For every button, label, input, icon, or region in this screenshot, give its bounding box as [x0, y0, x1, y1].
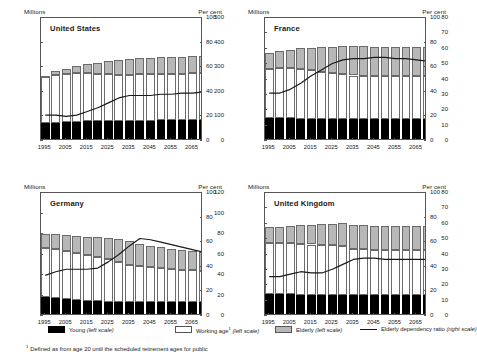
x-tick-label: 2035: [122, 319, 135, 325]
x-tick-label: 2005: [283, 319, 296, 325]
x-tick-mark: [268, 138, 269, 141]
y-tick-label-right: 100: [206, 14, 216, 20]
x-tick-mark: [394, 138, 395, 141]
y-tick-label-right: 60: [206, 63, 213, 69]
figure-footnote: 1Defined as from age 20 until the schedu…: [26, 344, 446, 352]
x-tick-label: 2015: [80, 144, 93, 150]
x-tick-mark: [170, 313, 171, 316]
x-tick-mark: [331, 138, 332, 141]
y-tick-mark-left: [264, 63, 267, 64]
x-tick-label: 2005: [59, 144, 72, 150]
y-tick-label-right: 100: [206, 189, 216, 195]
y-tick-label-right: 0: [206, 312, 209, 318]
y-tick-mark-left: [264, 109, 267, 110]
chart-title-france: France: [274, 24, 300, 33]
plot-area-united-kingdom: [264, 192, 426, 315]
y-tick-label-left: 40: [206, 271, 224, 277]
legend-item-working: Working age1 (left scale): [175, 326, 259, 334]
x-tick-label: 2035: [122, 144, 135, 150]
x-tick-mark: [191, 138, 192, 141]
chart-panel-united-kingdom: MillionsPer cent010203040506070800204060…: [242, 183, 448, 328]
y-tick-mark-right: [424, 266, 427, 267]
x-tick-mark: [289, 138, 290, 141]
y-tick-mark-left: [40, 233, 43, 234]
y-tick-label-left: 20: [430, 281, 448, 287]
y-tick-label-right: 20: [430, 287, 437, 293]
legend-swatch-working-icon: [175, 326, 192, 333]
x-tick-label: 2055: [388, 319, 401, 325]
y-tick-mark-right: [424, 42, 427, 43]
y-tick-label-left: 60: [430, 220, 448, 226]
y-tick-mark-left: [40, 213, 43, 214]
y-tick-mark-left: [40, 115, 43, 116]
x-tick-mark: [65, 313, 66, 316]
legend-swatch-ratio-icon: [360, 329, 377, 330]
x-tick-label: 2005: [59, 319, 72, 325]
y-tick-label-left: 60: [430, 45, 448, 51]
x-tick-mark: [268, 313, 269, 316]
x-tick-mark: [128, 313, 129, 316]
y-tick-mark-right: [424, 66, 427, 67]
y-tick-mark-left: [40, 295, 43, 296]
elderly-dependency-ratio-line: [265, 193, 426, 315]
x-tick-mark: [107, 313, 108, 316]
x-tick-label: 2055: [164, 144, 177, 150]
y-tick-label-right: 40: [430, 88, 437, 94]
y-tick-mark-right: [424, 315, 427, 316]
y-tick-mark-left: [264, 32, 267, 33]
y-tick-label-right: 40: [430, 263, 437, 269]
y-tick-mark-left: [264, 254, 267, 255]
y-tick-mark-left: [264, 207, 267, 208]
y-tick-mark-left: [264, 238, 267, 239]
y-tick-mark-right: [200, 115, 203, 116]
y-tick-mark-right: [200, 17, 203, 18]
legend-label-elderly: Elderly (left scale): [296, 327, 342, 333]
x-tick-label: 2015: [304, 319, 317, 325]
y-tick-mark-right: [424, 115, 427, 116]
y-tick-mark-right: [424, 241, 427, 242]
chart-title-germany: Germany: [50, 199, 84, 208]
plot-area-united-states: [40, 17, 202, 140]
y-tick-mark-left: [40, 274, 43, 275]
x-tick-label: 2035: [346, 144, 359, 150]
y-tick-mark-left: [264, 79, 267, 80]
y-tick-label-right: 60: [206, 238, 213, 244]
legend-label-ratio: Elderly dependency ratio (right scale): [381, 326, 477, 332]
y-tick-label-left: 10: [430, 297, 448, 303]
y-tick-mark-right: [424, 217, 427, 218]
footnote-text: Defined as from age 20 until the schedul…: [30, 346, 207, 352]
elderly-dependency-ratio-line: [41, 18, 202, 140]
x-tick-mark: [44, 313, 45, 316]
y-tick-mark-right: [200, 192, 203, 193]
y-tick-mark-left: [40, 17, 43, 18]
x-tick-mark: [149, 313, 150, 316]
x-tick-mark: [86, 313, 87, 316]
y-tick-label-left: 40: [430, 251, 448, 257]
x-tick-label: 2015: [304, 144, 317, 150]
y-tick-label-left: 80: [206, 230, 224, 236]
y-tick-mark-right: [424, 140, 427, 141]
y-tick-label-left: 40: [430, 76, 448, 82]
x-tick-label: 1995: [38, 319, 51, 325]
y-tick-mark-right: [200, 266, 203, 267]
y-tick-label-right: 80: [430, 214, 437, 220]
legend-label-working: Working age1 (left scale): [196, 326, 259, 334]
y-tick-mark-right: [200, 241, 203, 242]
chart-panel-germany: MillionsPer cent020406080100120020406080…: [18, 183, 224, 328]
y-tick-mark-right: [200, 42, 203, 43]
y-tick-mark-right: [424, 192, 427, 193]
y-tick-label-left: 70: [430, 204, 448, 210]
x-tick-label: 2025: [101, 144, 114, 150]
figure-legend: Young (left scale)Working age1 (left sca…: [0, 326, 448, 338]
y-tick-label-right: 20: [206, 287, 213, 293]
chart-panel-united-states: MillionsPer cent010020030040050002040608…: [18, 8, 224, 153]
legend-item-young: Young (left scale): [48, 326, 114, 333]
x-tick-mark: [310, 313, 311, 316]
x-tick-mark: [352, 138, 353, 141]
x-tick-label: 2005: [283, 144, 296, 150]
y-tick-mark-left: [264, 17, 267, 18]
x-tick-mark: [352, 313, 353, 316]
y-tick-label-right: 60: [430, 238, 437, 244]
y-tick-mark-left: [40, 66, 43, 67]
x-tick-mark: [128, 138, 129, 141]
